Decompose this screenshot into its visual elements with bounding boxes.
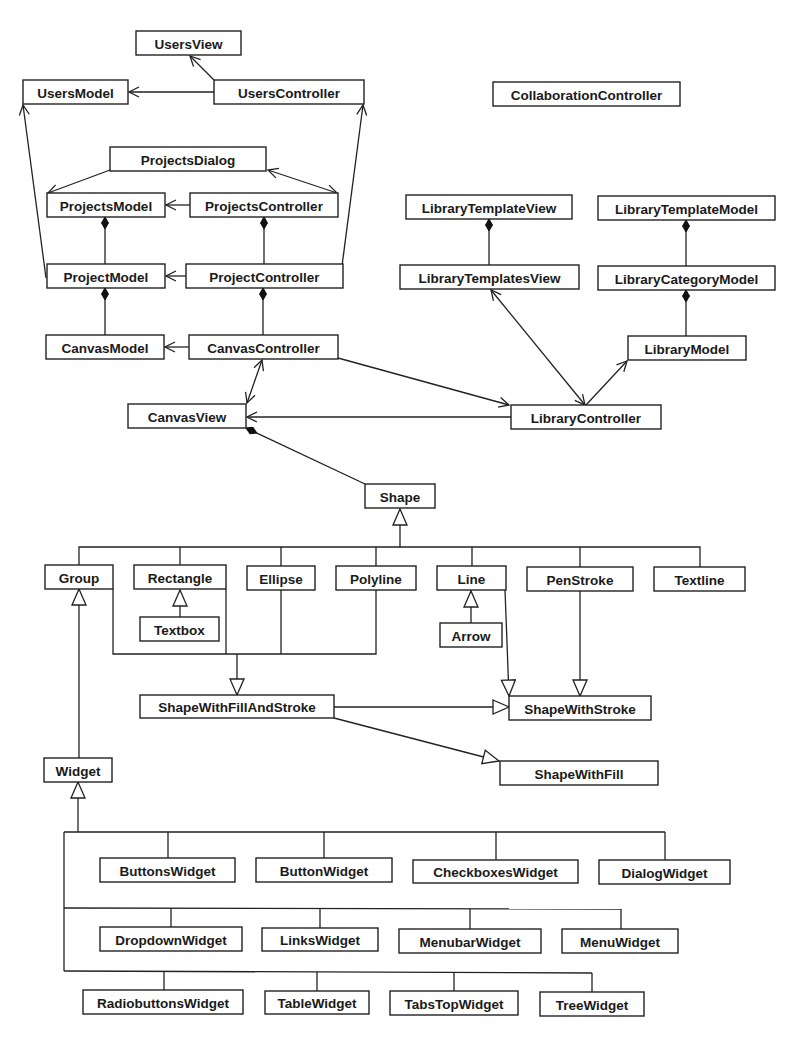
edge-canvascontroller-librarycontroller [338, 358, 509, 405]
class-box-buttonwidget: ButtonWidget [256, 858, 392, 882]
edge-widget-row3 [64, 971, 592, 973]
class-box-projectmodel: ProjectModel [47, 264, 165, 288]
class-box-projectscontroller: ProjectsController [190, 193, 338, 217]
edge-fillstroke-shapewithfill [334, 718, 499, 761]
class-name: PenStroke [547, 573, 614, 588]
class-name: ButtonWidget [280, 864, 369, 879]
class-name: ProjectModel [64, 270, 149, 285]
class-name: Ellipse [259, 572, 303, 587]
class-box-textbox: Textbox [140, 617, 219, 641]
class-box-projectcontroller: ProjectController [186, 264, 343, 288]
uml-class-diagram: UsersViewUsersModelUsersControllerCollab… [0, 0, 797, 1039]
class-name: UsersView [154, 37, 223, 52]
class-name: ShapeWithFill [534, 767, 623, 782]
class-box-librarytemplateview: LibraryTemplateView [406, 195, 572, 219]
class-box-tablewidget: TableWidget [265, 991, 369, 1014]
class-name: ProjectsController [205, 199, 324, 214]
class-name: TreeWidget [556, 998, 629, 1013]
class-box-menuwidget: MenuWidget [562, 929, 678, 953]
class-name: LinksWidget [280, 933, 361, 948]
class-name: Polyline [350, 572, 402, 587]
class-box-librarycategorymodel: LibraryCategoryModel [598, 266, 775, 290]
class-box-collaborationcontroller: CollaborationController [493, 82, 680, 106]
class-box-librarytemplatemodel: LibraryTemplateModel [598, 196, 775, 220]
class-box-arrow: Arrow [440, 623, 502, 647]
edge-line-shapewithstroke [505, 590, 509, 696]
class-box-shapewithstroke: ShapeWithStroke [509, 696, 651, 720]
class-name: CheckboxesWidget [433, 865, 558, 880]
class-name: Rectangle [148, 571, 213, 586]
class-name: Textbox [154, 623, 205, 638]
class-name: UsersModel [37, 86, 114, 101]
class-box-rectangle: Rectangle [134, 565, 226, 589]
class-box-librarymodel: LibraryModel [628, 336, 746, 360]
class-box-usersmodel: UsersModel [23, 80, 128, 104]
edge-widget-row2 [64, 908, 621, 909]
class-name: ProjectController [209, 270, 320, 285]
class-box-dialogwidget: DialogWidget [599, 860, 730, 884]
class-box-treewidget: TreeWidget [540, 992, 644, 1016]
class-name: Arrow [451, 629, 491, 644]
class-name: TabsTopWidget [404, 997, 504, 1012]
class-box-projectsdialog: ProjectsDialog [110, 147, 266, 171]
class-box-librarycontroller: LibraryController [511, 405, 661, 429]
class-boxes: UsersViewUsersModelUsersControllerCollab… [23, 31, 775, 1016]
class-box-line: Line [437, 566, 506, 590]
class-name: LibraryController [531, 411, 642, 426]
class-name: RadiobuttonsWidget [97, 996, 229, 1011]
class-box-dropdownwidget: DropdownWidget [100, 927, 242, 951]
class-box-shapewithfillandstroke: ShapeWithFillAndStroke [140, 695, 334, 718]
class-name: MenuWidget [580, 935, 661, 950]
class-box-group: Group [45, 565, 113, 589]
class-name: CanvasModel [61, 341, 148, 356]
class-name: CanvasController [207, 341, 320, 356]
class-name: ShapeWithStroke [524, 702, 636, 717]
edge-librarycontroller-librarymodel [586, 361, 627, 405]
class-name: UsersController [238, 86, 341, 101]
edge-projectsdialog-projectscontroller [268, 170, 337, 193]
class-name: CanvasView [148, 410, 227, 425]
edge-userscontroller-usersview [190, 56, 214, 80]
class-name: Textline [674, 573, 725, 588]
class-name: DropdownWidget [115, 933, 227, 948]
class-box-linkswidget: LinksWidget [262, 928, 378, 951]
class-name: DialogWidget [621, 866, 708, 881]
class-name: LibraryModel [645, 342, 730, 357]
edge-projectmodel-usersmodel [23, 105, 46, 278]
class-box-ellipse: Ellipse [247, 566, 315, 590]
class-name: LibraryTemplateModel [615, 202, 758, 217]
class-box-menubarwidget: MenubarWidget [399, 929, 541, 953]
class-name: TableWidget [277, 996, 357, 1011]
class-box-textline: Textline [654, 567, 745, 591]
class-name: Widget [56, 764, 101, 779]
edge-projectsdialog-projectsmodel [48, 170, 110, 193]
class-name: ProjectsDialog [141, 153, 236, 168]
class-box-checkboxeswidget: CheckboxesWidget [413, 860, 578, 883]
edge-projectcontroller-userscontroller [342, 105, 363, 266]
class-box-projectsmodel: ProjectsModel [47, 193, 165, 217]
class-box-shapewithfill: ShapeWithFill [500, 761, 658, 785]
class-box-polyline: Polyline [336, 566, 416, 590]
class-box-radiobuttonswidget: RadiobuttonsWidget [83, 990, 243, 1014]
class-name: Shape [380, 490, 421, 505]
edge-shape-tree-bus [79, 547, 700, 567]
class-box-buttonswidget: ButtonsWidget [100, 858, 235, 882]
class-box-penstroke: PenStroke [527, 567, 633, 591]
edge-canvascontroller-canvasview [247, 360, 262, 403]
edge-shape-canvasview [246, 428, 365, 484]
class-name: Line [458, 572, 486, 587]
class-name: Group [59, 571, 100, 586]
class-box-canvasmodel: CanvasModel [46, 335, 164, 359]
class-box-canvasview: CanvasView [128, 404, 246, 428]
class-name: LibraryTemplatesView [418, 271, 561, 286]
class-box-usersview: UsersView [136, 31, 241, 55]
class-name: LibraryTemplateView [422, 201, 557, 216]
edge-librarycontroller-librarytemplatesview [491, 290, 585, 405]
class-box-librarytemplatesview: LibraryTemplatesView [400, 265, 579, 289]
class-box-tabstopwidget: TabsTopWidget [390, 991, 518, 1015]
class-name: LibraryCategoryModel [615, 272, 758, 287]
class-name: ProjectsModel [60, 199, 152, 214]
class-box-widget: Widget [44, 758, 112, 782]
class-box-shape: Shape [365, 484, 435, 508]
class-box-canvascontroller: CanvasController [189, 335, 338, 359]
